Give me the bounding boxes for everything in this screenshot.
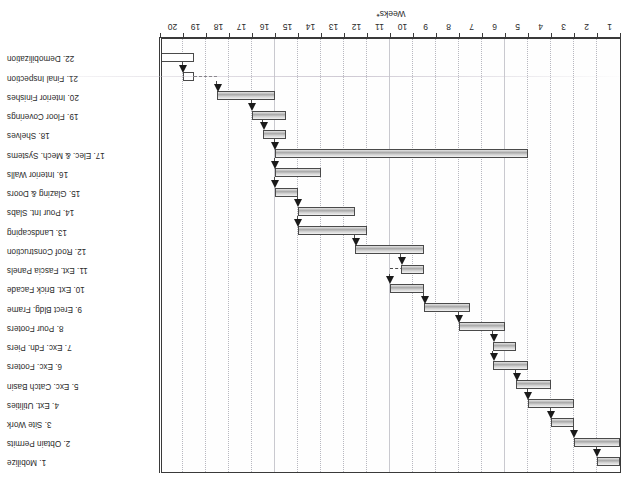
- task-bar: [528, 399, 574, 408]
- gridline-week-12: [342, 39, 344, 472]
- task-label: 6. Exc. Footers: [7, 361, 155, 371]
- milestone-marker: [456, 315, 464, 323]
- x-axis-tick: [459, 33, 460, 38]
- task-bar: [551, 419, 574, 428]
- x-axis-tick-label: 6: [483, 21, 507, 33]
- task-label: 17. Elec. & Mech. Systems: [7, 150, 155, 160]
- plot-area: [161, 38, 621, 473]
- milestone-marker: [272, 180, 280, 188]
- x-axis-tick: [574, 33, 575, 38]
- task-bar: [517, 380, 552, 389]
- gridline-week-11: [365, 39, 367, 472]
- gridline-week-19: [181, 39, 183, 472]
- x-axis-tick-label: 8: [437, 21, 461, 33]
- x-axis-tick: [367, 33, 368, 38]
- task-bar: [494, 342, 517, 351]
- task-bar: [298, 207, 356, 216]
- task-label: 15. Glazing & Doors: [7, 188, 155, 198]
- x-axis-tick-label: 10: [391, 21, 415, 33]
- x-axis-tick: [620, 33, 621, 38]
- x-axis-tick: [252, 33, 253, 38]
- x-axis-tick: [482, 33, 483, 38]
- milestone-marker: [525, 392, 533, 400]
- x-axis-tick: [344, 33, 345, 38]
- task-label: 18. Shelves: [7, 130, 155, 140]
- gridline-week-7: [457, 39, 459, 472]
- task-bar: [161, 53, 195, 62]
- x-axis-tick: [436, 33, 437, 38]
- x-axis-tick: [275, 33, 276, 38]
- x-axis-tick: [597, 33, 598, 38]
- milestone-marker: [398, 257, 406, 265]
- task-bar: [298, 226, 367, 235]
- scan-artifact-line: [0, 76, 629, 77]
- task-bar: [252, 111, 287, 120]
- task-label: 12. Roof Construction: [7, 246, 155, 256]
- task-bar: [425, 303, 471, 312]
- x-axis-tick: [229, 33, 230, 38]
- milestone-marker: [295, 199, 303, 207]
- x-axis-tick-label: 14: [299, 21, 323, 33]
- label-column-divider: [159, 37, 160, 473]
- milestone-marker: [180, 65, 188, 73]
- x-axis-tick: [321, 33, 322, 38]
- task-bar: [597, 457, 620, 466]
- milestone-marker: [513, 373, 521, 381]
- gantt-chart-figure: 1234567891011121314151617181920 Weeks* 1…: [0, 0, 629, 485]
- gantt-figure-canvas: 1234567891011121314151617181920 Weeks* 1…: [0, 0, 629, 485]
- gridline-week-17: [227, 39, 229, 472]
- task-bar: [459, 322, 505, 331]
- task-label: 22. Demobilization: [7, 53, 155, 63]
- milestone-marker: [214, 84, 222, 92]
- x-axis-tick: [528, 33, 529, 38]
- task-label: 7. Exc. Fdn. Piers: [7, 342, 155, 352]
- task-label: 10. Ext. Brick Facade: [7, 284, 155, 294]
- x-axis-tick-label: 17: [230, 21, 254, 33]
- task-bar: [218, 91, 276, 100]
- task-label: 11. Ext. Fascia Panels: [7, 265, 155, 275]
- task-label: 3. Site Work: [7, 419, 155, 429]
- gridline-week-13: [319, 39, 321, 472]
- gridline-week-14: [296, 39, 298, 472]
- task-bar: [390, 284, 425, 293]
- x-axis-tick: [183, 33, 184, 38]
- gridline-week-10: [389, 39, 390, 472]
- task-label: 4. Ext. Utilities: [7, 400, 155, 410]
- gridline-week-6: [480, 39, 482, 472]
- x-axis-tick-label: 1: [598, 21, 622, 33]
- x-axis-tick-label: 5: [506, 21, 530, 33]
- x-axis-tick-labels: 1234567891011121314151617181920: [161, 19, 621, 33]
- task-label: 14. Pour Int. Slabs: [7, 207, 155, 217]
- task-bar: [275, 149, 528, 158]
- task-bar: [356, 245, 425, 254]
- x-axis-tick: [413, 33, 414, 38]
- task-label: 2. Obtain Permits: [7, 438, 155, 448]
- milestone-marker: [272, 142, 280, 150]
- gridline-week-18: [204, 39, 206, 472]
- task-label: 13. Landscaping: [7, 227, 155, 237]
- task-bar: [402, 265, 425, 274]
- x-axis-tick-label: 7: [460, 21, 484, 33]
- task-label: 21. Final Inspection: [7, 73, 155, 83]
- milestone-marker: [490, 353, 498, 361]
- x-axis-tick: [298, 33, 299, 38]
- milestone-marker: [490, 334, 498, 342]
- milestone-marker: [548, 411, 556, 419]
- task-label: 5. Exc. Catch Basin: [7, 381, 155, 391]
- x-axis-tick-label: 4: [529, 21, 553, 33]
- task-label: 16. Interior Walls: [7, 169, 155, 179]
- x-axis-tick-label: 9: [414, 21, 438, 33]
- task-bar: [264, 130, 287, 139]
- milestone-marker: [421, 296, 429, 304]
- task-bar: [275, 188, 298, 197]
- gridline-week-9: [411, 39, 413, 472]
- x-axis-tick-label: 16: [253, 21, 277, 33]
- x-axis-tick: [206, 33, 207, 38]
- task-bar: [574, 438, 620, 447]
- task-label: 9. Erect Bldg. Frame: [7, 304, 155, 314]
- milestone-marker: [260, 122, 268, 130]
- milestone-marker: [352, 238, 360, 246]
- x-axis-title: Weeks*: [161, 9, 621, 19]
- x-axis-tick-label: 20: [161, 21, 185, 33]
- milestone-marker: [272, 161, 280, 169]
